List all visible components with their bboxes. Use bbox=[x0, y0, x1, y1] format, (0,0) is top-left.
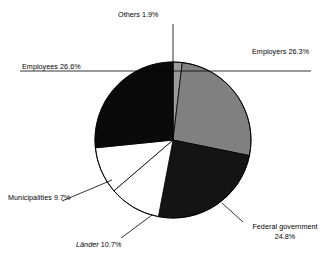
pie-slice-employers[interactable] bbox=[173, 63, 251, 156]
pie-label-laender-name: Länder bbox=[76, 240, 99, 249]
pie-chart-figure: Others 1.9% Employers 26.3% Employees 26… bbox=[0, 0, 331, 264]
pie-slice-employees[interactable] bbox=[95, 62, 173, 148]
leader-line-laender bbox=[121, 215, 152, 238]
pie-label-laender: Länder 10.7% bbox=[76, 240, 121, 249]
pie-label-federal-value: 24.8% bbox=[275, 232, 296, 241]
pie-label-employees: Employees 26.6% bbox=[22, 62, 81, 71]
pie-label-others: Others 1.9% bbox=[118, 10, 159, 19]
pie-label-federal-name: Federal government bbox=[252, 222, 317, 231]
pie-label-laender-value: 10.7% bbox=[101, 240, 122, 249]
pie-label-employers: Employers 26.3% bbox=[252, 47, 309, 56]
pie-label-federal-government: Federal government 24.8% bbox=[245, 222, 325, 241]
pie-label-municipalities: Municipalities 9.7% bbox=[8, 193, 70, 202]
leader-line-federal-government bbox=[222, 203, 243, 222]
